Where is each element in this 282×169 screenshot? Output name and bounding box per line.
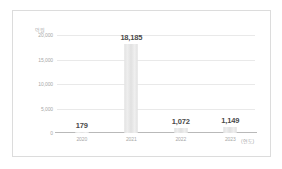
bar-group-2020: 179 2020: [57, 35, 107, 133]
bar-value-label-2022: 1,072: [172, 117, 190, 126]
bar-value-label-2023: 1,149: [221, 116, 239, 125]
x-tick-label-2022: 2022: [175, 136, 186, 142]
bar-group-2021: 18,185 2021: [107, 35, 157, 133]
bar-2020[interactable]: 179: [75, 132, 88, 133]
x-tick-label-2021: 2021: [126, 136, 137, 142]
bar-group-2022: 1,072 2022: [156, 35, 206, 133]
x-tick-label-2023: 2023: [225, 136, 236, 142]
bar-value-label-2021: 18,185: [120, 33, 142, 42]
y-tick-label-5000: 5,000: [41, 106, 53, 112]
y-tick-label-15000: 15,000: [38, 57, 53, 63]
y-tick-label-10000: 10,000: [38, 81, 53, 87]
bar-2022[interactable]: 1,072: [174, 128, 187, 133]
bar-group-2023: 1,149 2023: [206, 35, 256, 133]
chart-card: 억원 20,000 15,000 10,000 5,000 0 179 2020…: [12, 10, 271, 157]
bar-2023[interactable]: 1,149: [224, 127, 237, 133]
x-tick-label-2020: 2020: [76, 136, 87, 142]
bar-value-label-2020: 179: [76, 121, 88, 130]
y-tick-label-20000: 20,000: [38, 32, 53, 38]
y-tick-label-0: 0: [50, 130, 53, 136]
plot-area: 20,000 15,000 10,000 5,000 0 179 2020 18…: [57, 35, 255, 133]
x-axis-unit-label: (연도): [241, 137, 254, 144]
bar-2021[interactable]: 18,185: [125, 44, 138, 133]
